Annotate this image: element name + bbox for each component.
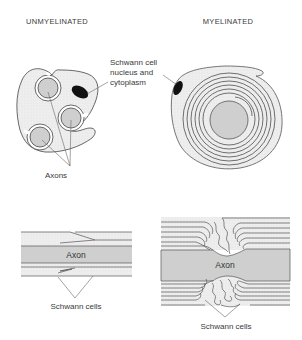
label-schwann-cells-left: Schwann cells	[50, 302, 101, 311]
label-axon-right: Axon	[215, 260, 235, 270]
title-unmyelinated: UNMYELINATED	[26, 17, 88, 26]
schwann-cells-leader-lines-left	[58, 276, 93, 298]
label-schwann-cells-right: Schwann cells	[200, 322, 251, 331]
myelinated-longitudinal: Axon	[161, 217, 290, 307]
nucleus-leader-line	[163, 75, 177, 85]
axon	[30, 127, 50, 147]
label-schwann-nucleus-3: cytoplasm	[110, 78, 146, 87]
title-myelinated: MYELINATED	[203, 17, 254, 26]
nerve-fiber-diagram: UNMYELINATED MYELINATED Axons Schwann ce…	[0, 0, 302, 340]
label-schwann-nucleus-1: Schwann cell	[110, 58, 157, 67]
unmyelinated-longitudinal: Axon	[21, 232, 132, 276]
axon	[210, 101, 248, 139]
unmyelinated-cross-section	[17, 69, 98, 152]
myelinated-cross-section	[171, 66, 282, 169]
label-schwann-nucleus-2: nucleus and	[110, 68, 153, 77]
label-axon-left: Axon	[66, 250, 86, 260]
axon	[38, 78, 58, 98]
label-axons: Axons	[45, 171, 67, 180]
